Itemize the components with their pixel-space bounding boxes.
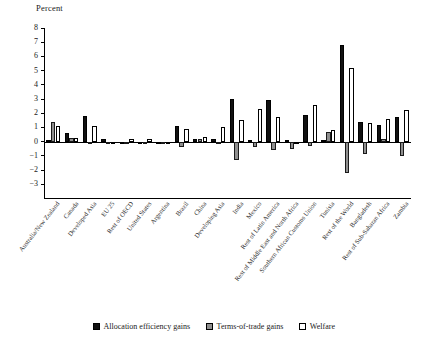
bar [308,142,312,146]
y-tick-label: −2 [29,164,38,175]
legend-label: Allocation efficiency gains [104,322,191,331]
bar [175,126,179,142]
bar [313,105,317,142]
bar-group [209,28,227,199]
bar [111,142,115,144]
bar [234,142,238,160]
x-axis-label-text: Zambia [391,200,409,220]
y-tick-label: 3 [34,93,38,104]
bar [129,139,133,141]
chart-legend: Allocation efficiency gainsTerms-of-trad… [0,319,428,333]
y-axis-title: Percent [36,3,63,13]
bar [321,140,325,142]
bar [65,133,69,142]
bar [381,139,385,141]
bar [400,142,404,156]
bar [303,115,307,142]
y-tick-label: 2 [34,107,38,118]
x-axis-labels: Australia/New ZealandCanadaDeveloped Asi… [44,200,411,295]
bar [285,140,289,142]
bar [290,142,294,150]
bars-area [44,28,411,199]
legend-swatch-icon [206,323,213,330]
bar [51,122,55,141]
bar [156,142,160,144]
y-tick-label: 7 [34,36,38,47]
bar-group [264,28,282,199]
bar [161,142,165,144]
legend-label: Welfare [310,322,335,331]
bar [395,117,399,141]
bar [230,99,234,142]
legend-label: Terms-of-trade gains [217,322,284,331]
bar [83,116,87,142]
y-tick-label: 6 [34,50,38,61]
y-tick-label: 0 [34,136,38,147]
bar [120,142,124,144]
bar [106,142,110,144]
bar [92,126,96,142]
bar-group [191,28,209,199]
bar [124,142,128,144]
bar [203,137,207,141]
bar [253,142,257,147]
y-tick-label: −1 [29,150,38,161]
bar [326,132,330,141]
bar [193,139,197,142]
y-tick-label: 1 [34,121,38,132]
bar [276,117,280,141]
bar-group [44,28,62,199]
bar [74,138,78,142]
bar [101,139,105,142]
bar [147,139,151,142]
x-axis-label-text: Canada [61,200,79,220]
bar [377,125,381,142]
x-axis-label-text: India [230,200,244,215]
bar [46,140,50,142]
legend-item: Allocation efficiency gains [93,322,190,331]
x-axis-label-text: China [192,200,207,217]
x-axis-label-text: EU 25 [100,200,116,218]
bar [216,142,220,144]
bar [294,142,298,144]
legend-item: Terms-of-trade gains [206,322,283,331]
y-tick-label: 5 [34,65,38,76]
legend-item: Welfare [299,322,335,331]
bar [331,130,335,141]
x-axis-label-text: Tunisia [318,200,336,220]
bar [404,110,408,141]
bar [138,142,142,144]
y-tick-label: 4 [34,79,38,90]
x-axis-label-text: Brazil [174,200,189,217]
y-tick-label: 8 [34,22,38,33]
bar [340,45,344,142]
bar-group [172,28,190,199]
legend-swatch-icon [299,323,306,330]
bar [143,142,147,144]
bar [386,119,390,142]
y-tick-label: −3 [29,178,38,189]
bar [239,120,243,141]
bar [248,140,252,142]
bar-chart: Percent 876543210−1−2−3 Australia/New Ze… [0,0,428,340]
bar [221,127,225,141]
bar [258,109,262,142]
bar [198,139,202,141]
bar [184,129,188,142]
bar [271,142,275,151]
legend-swatch-icon [93,323,100,330]
bar [69,138,73,142]
x-axis-label-text: Australia/New Zealand [17,200,60,253]
bar [266,100,270,141]
bar [211,139,215,142]
bar [56,126,60,142]
bar [166,142,170,145]
bar [88,142,92,144]
bar [179,142,183,147]
